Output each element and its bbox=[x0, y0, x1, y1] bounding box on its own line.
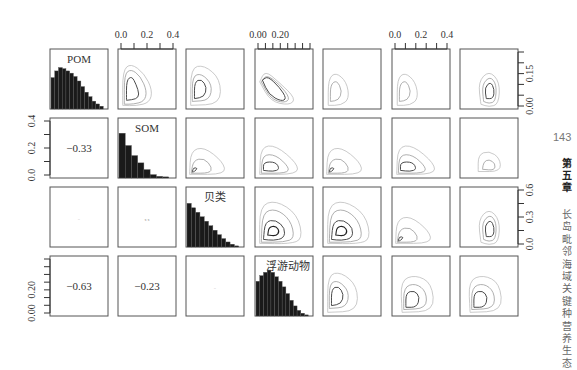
panel-r0-c1 bbox=[118, 49, 176, 109]
tick-label: 0.4 bbox=[441, 29, 454, 40]
panel-r1-c6 bbox=[460, 118, 518, 178]
histogram-bar bbox=[77, 81, 81, 109]
tick-label: 0.2 bbox=[26, 142, 37, 155]
panel-r1-c2 bbox=[186, 118, 244, 178]
panel-r0-c6 bbox=[460, 49, 518, 109]
tick-label: 0.00 bbox=[249, 29, 267, 40]
panel-r3-c5 bbox=[392, 256, 450, 316]
histogram-bar bbox=[85, 92, 89, 109]
correlation-value: −0.23 bbox=[134, 280, 160, 292]
histogram-bar bbox=[66, 71, 70, 109]
tick-label: 0.0 bbox=[26, 169, 37, 182]
running-title: 长岛毗邻海域关键种营养生态 bbox=[560, 209, 574, 370]
variable-label: SOM bbox=[135, 122, 159, 134]
histogram-bar bbox=[221, 239, 225, 247]
histogram-bar bbox=[267, 270, 271, 316]
top-axis-col5: 0.00.20.4 bbox=[389, 29, 454, 49]
panel-r2-c5 bbox=[392, 187, 450, 247]
page-number: 143 bbox=[553, 131, 571, 143]
histogram-bar bbox=[187, 203, 191, 247]
tick-label: 0.0 bbox=[115, 29, 128, 40]
panel-r1-c3 bbox=[255, 118, 313, 178]
tick-label: 0.3 bbox=[524, 211, 535, 224]
tick-label: 0.20 bbox=[272, 29, 290, 40]
histogram-bar bbox=[70, 73, 74, 109]
panel-r2-c4 bbox=[323, 187, 381, 247]
tick-label: 0.2 bbox=[415, 29, 428, 40]
panel-r3-c1: −0.23 bbox=[118, 256, 176, 316]
panel-r0-c0: POM bbox=[50, 49, 108, 109]
histogram-bar bbox=[163, 177, 169, 178]
variable-label: POM bbox=[67, 53, 91, 65]
top-axis-col1: 0.00.20.4 bbox=[115, 29, 180, 49]
left-axis-row3: 0.000.20 bbox=[26, 259, 50, 322]
variable-label: 贝类 bbox=[204, 190, 226, 203]
panel-r0-c2 bbox=[186, 49, 244, 109]
panel-r1-c1: SOM bbox=[118, 118, 176, 178]
histogram-bar bbox=[88, 97, 92, 109]
tick-label: 0.15 bbox=[524, 65, 535, 83]
panel-r3-c3: 浮游动物 bbox=[255, 256, 313, 316]
tick-label: 0.00 bbox=[524, 97, 535, 115]
histogram-bar bbox=[213, 230, 217, 247]
histogram-bar bbox=[204, 221, 208, 247]
panel-r1-c5 bbox=[392, 118, 450, 178]
panel-r3-c0: −0.63 bbox=[50, 256, 108, 316]
top-axis-col3: 0.000.20 bbox=[249, 29, 310, 49]
left-axis-row1: 0.00.20.4 bbox=[26, 115, 50, 182]
histogram-bar bbox=[119, 133, 125, 178]
histogram-bar bbox=[144, 170, 150, 178]
histogram-bar bbox=[62, 69, 66, 109]
histogram-bar bbox=[234, 246, 238, 247]
panel-r0-c5 bbox=[392, 49, 450, 109]
histogram-bar bbox=[73, 77, 77, 109]
panel-r3-c6 bbox=[460, 256, 518, 316]
correlation-value: −0.33 bbox=[66, 142, 92, 154]
histogram-bar bbox=[290, 300, 294, 316]
histogram-bar bbox=[138, 163, 144, 178]
panel-r2-c0: − bbox=[50, 187, 108, 247]
histogram-bar bbox=[217, 235, 221, 247]
histogram-bar bbox=[293, 306, 297, 316]
panel-r3-c4 bbox=[323, 256, 381, 316]
chapter-label: 第五章 bbox=[560, 158, 574, 194]
histogram-bar bbox=[297, 310, 301, 316]
histogram-bar bbox=[271, 272, 275, 316]
histogram-bar bbox=[191, 208, 195, 247]
histogram-bar bbox=[263, 272, 267, 316]
panel-r2-c3 bbox=[255, 187, 313, 247]
tick-label: 0.00 bbox=[26, 304, 37, 322]
histogram-bar bbox=[55, 71, 59, 109]
tick-label: 0.20 bbox=[26, 281, 37, 299]
histogram-bar bbox=[226, 242, 230, 247]
correlation-value: −0.63 bbox=[66, 280, 92, 292]
histogram-bar bbox=[100, 106, 104, 109]
histogram-bar bbox=[125, 146, 131, 178]
histogram-bar bbox=[230, 244, 234, 247]
histogram-bar bbox=[305, 315, 309, 316]
histogram-bar bbox=[150, 175, 156, 178]
tick-label: 0.2 bbox=[141, 29, 154, 40]
panel-r1-c4 bbox=[323, 118, 381, 178]
right-axis-row0: 0.000.15 bbox=[518, 52, 535, 115]
histogram-bar bbox=[196, 212, 200, 247]
panel-r2-c6 bbox=[460, 187, 518, 247]
correlation-value: x x bbox=[145, 217, 150, 222]
histogram-bar bbox=[131, 156, 137, 178]
histogram-bar bbox=[275, 277, 279, 316]
right-axis-row2: 0.00.30.6 bbox=[518, 184, 535, 251]
histogram-bar bbox=[58, 68, 62, 109]
histogram-bar bbox=[256, 281, 260, 316]
variable-label: 浮游动物 bbox=[266, 259, 310, 272]
tick-label: 0.4 bbox=[26, 115, 37, 128]
panel-r2-c2: 贝类 bbox=[186, 187, 244, 247]
histogram-bar bbox=[51, 78, 55, 109]
histogram-bar bbox=[286, 294, 290, 316]
histogram-bar bbox=[209, 226, 213, 247]
histogram-bar bbox=[81, 87, 85, 109]
tick-label: 0.4 bbox=[167, 29, 180, 40]
panel-r1-c0: −0.33 bbox=[50, 118, 108, 178]
histogram-bar bbox=[282, 287, 286, 316]
histogram-bar bbox=[260, 276, 264, 316]
